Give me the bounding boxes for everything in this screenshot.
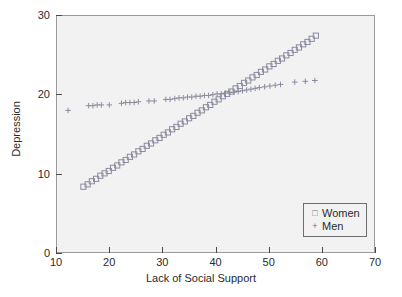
data-point-plus [312, 78, 318, 84]
x-tick-label: 10 [41, 257, 71, 268]
series-men [65, 78, 317, 113]
x-axis-label: Lack of Social Support [0, 272, 402, 284]
y-axis-label: Depression [10, 89, 22, 169]
data-point-plus [167, 97, 173, 103]
data-point-plus [235, 89, 241, 95]
y-tick [56, 15, 62, 16]
data-point-plus [172, 96, 178, 102]
data-point-plus [272, 82, 278, 88]
data-point-plus [99, 102, 105, 108]
data-point-plus [252, 86, 258, 92]
x-tick [375, 247, 376, 253]
data-point-plus [180, 95, 186, 101]
x-tick [322, 247, 323, 253]
chart-legend: □ Women + Men [303, 203, 367, 237]
legend-item-men: + Men [308, 220, 360, 233]
data-point-plus [292, 79, 298, 85]
data-point-plus [189, 94, 195, 100]
data-point-plus [244, 87, 250, 93]
legend-label-men: Men [322, 220, 343, 233]
x-tick [162, 247, 163, 253]
legend-item-women: □ Women [308, 207, 360, 220]
x-tick [216, 247, 217, 253]
data-point-plus [303, 79, 309, 85]
data-point-plus [65, 108, 71, 114]
data-point-plus [257, 85, 263, 91]
data-point-plus [119, 101, 125, 107]
data-point-plus [136, 99, 142, 105]
data-point-plus [262, 84, 268, 90]
chart-figure: Lack of Social Support Depression □ Wome… [0, 0, 402, 297]
data-point-plus [210, 92, 216, 98]
plus-marker-icon: + [308, 220, 322, 233]
data-point-plus [206, 93, 212, 99]
series-women [81, 33, 319, 189]
x-tick-label: 70 [360, 257, 390, 268]
data-point-plus [248, 86, 254, 92]
x-tick-label: 60 [307, 257, 337, 268]
x-tick [56, 247, 57, 253]
y-tick-label: 20 [26, 89, 50, 100]
legend-label-women: Women [322, 207, 360, 220]
data-point-plus [151, 98, 157, 104]
data-point-plus [146, 98, 152, 104]
x-tick [109, 247, 110, 253]
y-tick-label: 30 [26, 10, 50, 21]
y-tick [56, 253, 62, 254]
x-tick [269, 247, 270, 253]
y-tick [56, 174, 62, 175]
data-point-plus [267, 83, 273, 89]
data-point-plus [107, 102, 113, 108]
data-point-plus [90, 103, 96, 109]
data-point-plus [197, 93, 203, 99]
y-tick-label: 10 [26, 169, 50, 180]
data-point-plus [219, 91, 225, 97]
x-tick-label: 20 [94, 257, 124, 268]
data-point-plus [131, 100, 137, 106]
y-tick [56, 94, 62, 95]
square-marker-icon: □ [308, 207, 322, 220]
x-tick-label: 40 [201, 257, 231, 268]
x-tick-label: 30 [147, 257, 177, 268]
x-tick-label: 50 [254, 257, 284, 268]
data-point-plus [278, 82, 284, 88]
